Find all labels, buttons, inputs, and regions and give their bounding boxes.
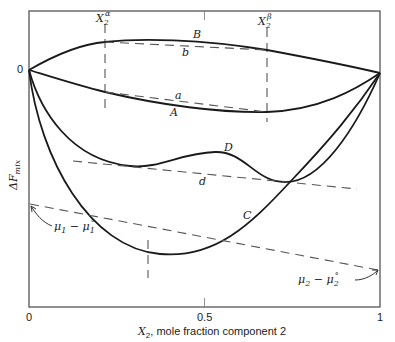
tangent-a <box>105 92 267 112</box>
x2-alpha-label: X2α <box>95 9 111 27</box>
curve-B <box>29 40 380 73</box>
curve-A-label: A <box>169 106 178 119</box>
mu1-label: μ1 − μ1° <box>54 218 95 235</box>
curve-D <box>29 70 380 182</box>
y-axis-label: ΔFmix <box>7 159 22 191</box>
tangent-c <box>30 204 378 270</box>
tangent-a-label: a <box>175 89 182 102</box>
tangent-b-label: b <box>182 46 189 59</box>
x-tick-0.5: 0.5 <box>197 311 212 323</box>
x-axis-label: X2, mole fraction component 2 <box>137 325 286 340</box>
y-origin-label: 0 <box>17 63 23 75</box>
mu2-label: μ2 − μ2° <box>298 271 339 288</box>
curve-A <box>29 70 380 112</box>
phase-diagram: 0 X2α X2β B b a A D d C ΔFmix μ1 − μ1° μ… <box>0 0 395 342</box>
tangent-d <box>73 161 357 189</box>
x2-beta-label: X2β <box>257 12 272 30</box>
tangent-d-label: d <box>199 175 206 188</box>
curve-D-label: D <box>223 141 233 154</box>
mu2-arrow <box>355 270 378 280</box>
curve-B-label: B <box>192 28 201 41</box>
mu1-arrow <box>31 206 52 226</box>
x-tick-1: 1 <box>377 311 383 323</box>
curve-C-label: C <box>243 209 252 222</box>
x-tick-0: 0 <box>26 311 32 323</box>
